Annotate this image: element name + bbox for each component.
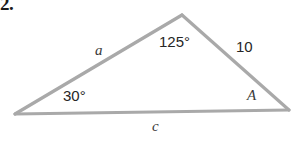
angle-variable-label-A: A <box>247 88 256 103</box>
angle-label-apex: 125° <box>159 34 190 49</box>
side-length-label-10: 10 <box>236 39 253 54</box>
side-variable-label-c: c <box>152 119 159 134</box>
triangle-side-a <box>15 15 182 114</box>
triangle-shape <box>0 0 294 147</box>
side-variable-label-a: a <box>95 43 103 58</box>
triangle-side-10 <box>182 15 289 110</box>
figure-canvas: 2. 125° 30° 10 a c A <box>0 0 294 147</box>
triangle-side-c <box>15 110 289 114</box>
angle-label-left: 30° <box>63 88 86 103</box>
